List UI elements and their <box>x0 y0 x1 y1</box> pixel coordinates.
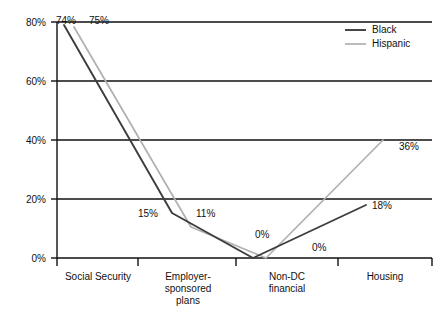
data-label-black-housing: 18% <box>372 200 392 211</box>
y-tick-label-60: 60% <box>2 76 46 87</box>
series-line-black <box>64 25 366 258</box>
x-category-line: sponsored <box>143 283 233 295</box>
line-chart: 80% 60% 40% 20% 0% Social Security Emplo… <box>0 0 442 315</box>
gridlines <box>57 22 432 258</box>
data-label-black-social-security: 74% <box>56 15 76 26</box>
x-category-line: Social Security <box>52 271 144 283</box>
data-label-hispanic-housing: 36% <box>399 141 419 152</box>
series-line-hispanic <box>74 27 383 258</box>
x-category-line: Housing <box>340 271 430 283</box>
y-tick-label-40: 40% <box>2 135 46 146</box>
x-category-label-non-dc-financial: Non-DC financial <box>242 271 332 295</box>
y-tick-label-20: 20% <box>2 194 46 205</box>
x-category-label-employer-sponsored-plans: Employer- sponsored plans <box>143 271 233 307</box>
y-tick-label-80: 80% <box>2 17 46 28</box>
x-category-label-housing: Housing <box>340 271 430 283</box>
legend-item-black: Black <box>372 24 396 35</box>
data-label-black-nondc: 0% <box>255 229 269 240</box>
legend-item-hispanic: Hispanic <box>372 38 410 49</box>
y-axis-ticks <box>51 22 57 258</box>
legend-swatches <box>345 30 366 44</box>
x-category-line: plans <box>143 295 233 307</box>
x-category-label-social-security: Social Security <box>52 271 144 283</box>
data-label-black-employer: 15% <box>138 208 158 219</box>
y-tick-label-0: 0% <box>2 253 46 264</box>
data-label-hispanic-employer: 11% <box>196 208 215 219</box>
x-category-line: Non-DC <box>242 271 332 283</box>
x-category-line: Employer- <box>143 271 233 283</box>
data-label-hispanic-nondc: 0% <box>312 242 326 253</box>
data-label-hispanic-social-security: 75% <box>89 15 109 26</box>
x-category-line: financial <box>242 283 332 295</box>
x-axis-ticks <box>57 258 432 266</box>
